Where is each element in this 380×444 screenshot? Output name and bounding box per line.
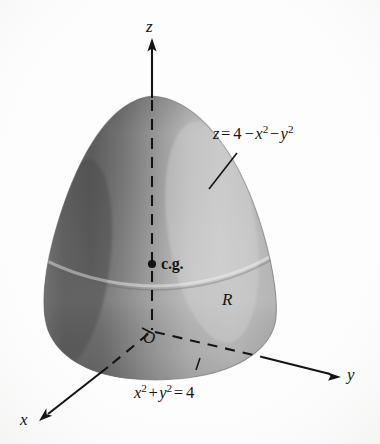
base-eq-equals: =	[172, 383, 184, 402]
center-of-gravity-label: c.g.	[161, 256, 183, 272]
y-axis-label: y	[347, 366, 355, 383]
origin-label: O	[143, 329, 155, 346]
surface-eq-minus-1: −	[243, 124, 255, 143]
surface-eq-equals: =	[219, 124, 231, 143]
paraboloid-figure-svg	[0, 0, 380, 444]
x-axis-label: x	[20, 411, 28, 428]
figure-container: z y x z=4−x2−y2 x2+y2=4 c.g. O R	[0, 0, 380, 444]
surface-eq-y-var: y	[281, 124, 288, 143]
surface-eq-minus-2: −	[268, 124, 280, 143]
base-eq-y-var: y	[159, 383, 166, 402]
surface-equation-label: z=4−x2−y2	[213, 126, 293, 143]
base-equation-label: x2+y2=4	[134, 385, 196, 402]
region-label: R	[222, 291, 232, 308]
base-eq-plus: +	[147, 383, 159, 402]
base-eq-rhs: 4	[185, 383, 196, 402]
surface-eq-y-exponent: 2	[288, 123, 294, 135]
surface-eq-const: 4	[232, 124, 243, 143]
center-of-gravity-dot	[148, 260, 156, 268]
z-axis-label: z	[146, 18, 153, 35]
surface-eq-x-var: x	[255, 124, 262, 143]
